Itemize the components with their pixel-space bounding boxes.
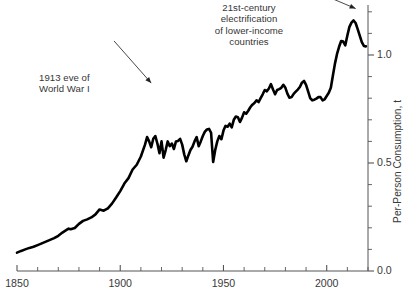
annotation-ww1-text: 1913 eve of World War I: [39, 72, 90, 95]
y-tick-label-0.0: 0.0: [377, 264, 392, 276]
annotation-arrow-line-electrification: [312, 0, 355, 9]
series-path-per-person-consumption: [17, 20, 366, 252]
x-tick-label-2000: 2000: [315, 277, 339, 289]
x-axis-ticks: [17, 265, 368, 271]
annotation-arrow-line-ww1: [114, 41, 151, 83]
y-tick-label-1.0: 1.0: [377, 48, 392, 60]
x-tick-label-1850: 1850: [5, 277, 29, 289]
y-tick-label-0.5: 0.5: [377, 156, 392, 168]
y-axis-title: Per-Person Consumption, t: [392, 100, 403, 223]
chart-figure: 1913 eve of World War I 21st-century ele…: [0, 0, 417, 299]
data-series-line: [17, 20, 366, 252]
annotation-electrification-text: 21st-century electrification of lower-in…: [190, 2, 308, 48]
x-tick-label-1900: 1900: [108, 277, 132, 289]
x-tick-label-1950: 1950: [212, 277, 236, 289]
y-axis-ticks: [368, 12, 374, 271]
